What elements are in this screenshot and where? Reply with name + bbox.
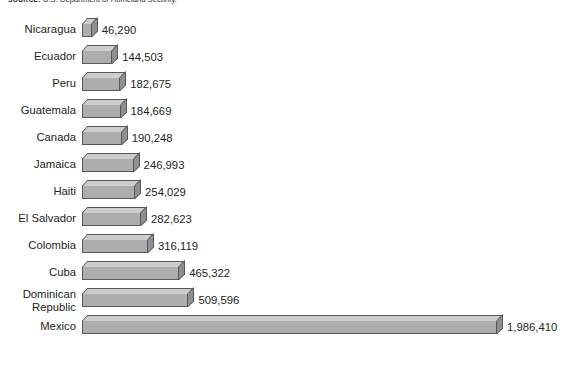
bar-top-face — [82, 99, 126, 105]
bar-top-face — [82, 288, 194, 294]
bar-row: Guatemala184,669 — [0, 99, 564, 126]
category-label: Colombia — [0, 239, 76, 252]
source-note: SOURCE: U.S. Department of Homeland Secu… — [8, 0, 177, 5]
bar-top-face — [82, 207, 146, 213]
category-label: El Salvador — [0, 212, 76, 225]
bar-front-face — [82, 212, 141, 226]
bar-front-face — [82, 320, 497, 334]
bar-row: Colombia316,119 — [0, 234, 564, 261]
bar-row: Dominican Republic509,596 — [0, 288, 564, 315]
bar-top-face — [82, 261, 185, 267]
bar-row: Haiti254,029 — [0, 180, 564, 207]
category-label: Haiti — [0, 185, 76, 198]
category-label: Canada — [0, 131, 76, 144]
bar-value-label: 246,993 — [144, 158, 185, 172]
source-label: SOURCE: — [8, 0, 41, 3]
bar-front-face — [82, 239, 148, 253]
bar-row: Jamaica246,993 — [0, 153, 564, 180]
bar-value-label: 254,029 — [145, 185, 186, 199]
bar-front-face — [82, 50, 112, 64]
bar — [82, 45, 112, 69]
bar-top-face — [82, 180, 140, 186]
bar-value-label: 509,596 — [198, 293, 239, 307]
bar — [82, 288, 188, 312]
category-label: Ecuador — [0, 50, 76, 63]
category-label: Peru — [0, 77, 76, 90]
bar — [82, 315, 497, 339]
category-label: Nicaragua — [0, 23, 76, 36]
bar-chart: Nicaragua46,290Ecuador144,503Peru182,675… — [0, 14, 564, 367]
bar-top-face — [82, 234, 153, 240]
bar-value-label: 46,290 — [102, 23, 137, 37]
bar-front-face — [82, 266, 179, 280]
bar — [82, 207, 141, 231]
bar-value-label: 182,675 — [130, 77, 171, 91]
bar-top-face — [82, 315, 502, 321]
bar-row: Nicaragua46,290 — [0, 18, 564, 45]
bar-front-face — [82, 293, 188, 307]
bar-front-face — [82, 131, 122, 145]
bar-row: El Salvador282,623 — [0, 207, 564, 234]
bar — [82, 234, 148, 258]
bar-row: Mexico1,986,410 — [0, 315, 564, 342]
category-label: Cuba — [0, 266, 76, 279]
bar-row: Canada190,248 — [0, 126, 564, 153]
bar — [82, 126, 122, 150]
bar-value-label: 1,986,410 — [507, 320, 557, 334]
bar-front-face — [82, 158, 134, 172]
bar — [82, 72, 120, 96]
bar — [82, 18, 92, 42]
category-label: Mexico — [0, 320, 76, 333]
bar-value-label: 316,119 — [158, 239, 198, 253]
bar-row: Peru182,675 — [0, 72, 564, 99]
bar-value-label: 465,322 — [189, 266, 230, 280]
category-label: Guatemala — [0, 104, 76, 117]
source-text: U.S. Department of Homeland Security. — [43, 0, 177, 4]
bar-front-face — [82, 23, 92, 37]
bar — [82, 180, 135, 204]
bar-front-face — [82, 77, 120, 91]
bar — [82, 261, 179, 285]
category-label: Jamaica — [0, 158, 76, 171]
bar-top-face — [82, 126, 127, 132]
bar-top-face — [82, 45, 118, 51]
bar-value-label: 144,503 — [122, 50, 163, 64]
category-label: Dominican Republic — [0, 288, 76, 313]
bar-row: Ecuador144,503 — [0, 45, 564, 72]
bar-top-face — [82, 72, 126, 78]
bar-value-label: 282,623 — [151, 212, 192, 226]
bar-top-face — [82, 153, 139, 159]
bar — [82, 153, 134, 177]
bar-front-face — [82, 185, 135, 199]
bar-value-label: 184,669 — [131, 104, 172, 118]
bar-row: Cuba465,322 — [0, 261, 564, 288]
bar-front-face — [82, 104, 121, 118]
bar-value-label: 190,248 — [132, 131, 173, 145]
bar — [82, 99, 121, 123]
